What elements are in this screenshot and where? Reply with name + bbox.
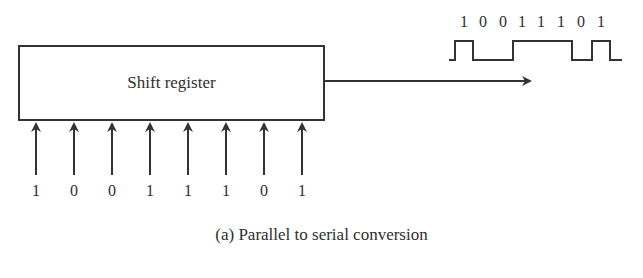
input-bit-label: 0 xyxy=(66,182,82,200)
figure-caption: (a) Parallel to serial conversion xyxy=(0,225,643,245)
input-bit-label: 0 xyxy=(104,182,120,200)
output-bit-label: 0 xyxy=(475,13,491,31)
output-bit-label: 1 xyxy=(514,13,530,31)
serial-waveform xyxy=(449,41,622,60)
input-bit-label: 1 xyxy=(218,182,234,200)
output-bit-label: 1 xyxy=(456,13,472,31)
output-bit-label: 1 xyxy=(593,13,609,31)
output-bit-label: 0 xyxy=(495,13,511,31)
parallel-input-arrows xyxy=(36,124,302,175)
output-bit-label: 1 xyxy=(533,13,549,31)
output-bit-label: 0 xyxy=(573,13,589,31)
input-bit-label: 1 xyxy=(28,182,44,200)
input-bit-label: 1 xyxy=(180,182,196,200)
input-bit-label: 1 xyxy=(142,182,158,200)
output-bit-label: 1 xyxy=(553,13,569,31)
input-bit-label: 1 xyxy=(294,182,310,200)
input-bit-label: 0 xyxy=(256,182,272,200)
